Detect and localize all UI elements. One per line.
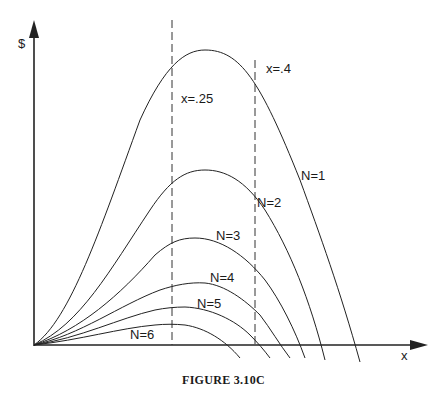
curve-label-n1: N=1 — [301, 168, 325, 183]
curve-label-n6: N=6 — [130, 327, 154, 342]
figure-caption: FIGURE 3.10C — [182, 373, 265, 387]
x-axis-label: x — [401, 348, 408, 363]
marker-label-x04: x=.4 — [266, 61, 291, 76]
curve-n2 — [34, 170, 325, 360]
curve-label-n2: N=2 — [257, 195, 281, 210]
y-axis-label: $ — [18, 36, 26, 51]
curve-n3 — [34, 238, 305, 358]
x-axis-arrow-icon — [410, 340, 428, 350]
y-axis-arrow-icon — [29, 20, 39, 38]
curve-label-n5: N=5 — [197, 296, 221, 311]
curve-n4 — [34, 283, 290, 358]
figure-canvas: $ x x=.25 x=.4 N=1 N=2 N=3 N=4 N=5 N=6 F… — [0, 0, 446, 395]
curve-label-n4: N=4 — [210, 270, 234, 285]
curve-label-n3: N=3 — [216, 228, 240, 243]
marker-label-x025: x=.25 — [181, 91, 213, 106]
